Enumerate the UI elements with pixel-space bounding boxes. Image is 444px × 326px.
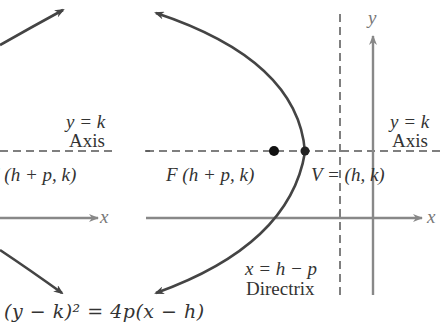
right-axis-label: Axis <box>392 131 428 150</box>
vertex-point <box>301 147 310 156</box>
y-axis-label: y <box>368 8 376 27</box>
left-axis-label: Axis <box>69 131 105 150</box>
right-panel <box>146 13 444 296</box>
left-panel <box>0 10 150 293</box>
parabola-equation: (y − k)² = 4p(x − h) <box>4 300 205 322</box>
focus-label: F (h + p, k) <box>166 165 254 184</box>
directrix-label: Directrix <box>246 279 315 298</box>
left-focus-label: F (h + p, k) <box>0 165 76 184</box>
focus-point <box>269 146 279 156</box>
parabola-upper-branch <box>156 13 305 152</box>
parabola-diagram: y = k Axis F (h + p, k) x y y = k Axis F… <box>0 0 444 326</box>
directrix-equation-label: x = h − p <box>245 259 317 278</box>
diagram-graphics <box>0 0 444 326</box>
left-parabola-lower-branch <box>0 250 62 293</box>
vertex-label: V = (h, k) <box>311 165 385 184</box>
right-axis-equation-label: y = k <box>390 112 429 131</box>
left-x-axis-label: x <box>100 207 108 226</box>
left-parabola-upper-branch <box>0 10 63 45</box>
left-axis-equation-label: y = k <box>66 112 105 131</box>
right-x-axis-label: x <box>427 207 435 226</box>
